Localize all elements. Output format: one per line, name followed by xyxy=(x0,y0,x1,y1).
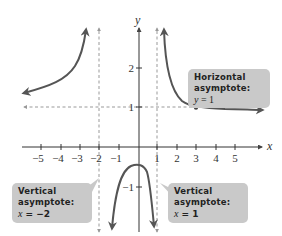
y-tick-label: 1 xyxy=(129,101,135,113)
left-branch xyxy=(24,30,86,93)
callout-equation: x = −2 xyxy=(18,208,86,220)
x-tick-label: −2 xyxy=(90,152,102,164)
eq-value: = −2 xyxy=(22,209,50,219)
x-tick-label: 5 xyxy=(232,152,238,164)
callout-title: Horizontal asymptote: xyxy=(194,72,264,94)
callout-equation: x = 1 xyxy=(174,208,242,220)
x-tick-label: 3 xyxy=(193,152,199,164)
x-tick-label: −4 xyxy=(52,152,64,164)
callout-title: Vertical asymptote: xyxy=(174,186,242,208)
eq-value: = 1 xyxy=(198,94,214,105)
x-tick-label: 1 xyxy=(154,152,160,164)
horizontal-asymptote-callout: Horizontal asymptote: y = 1 xyxy=(188,69,270,108)
x-tick-label: −3 xyxy=(71,152,83,164)
callout-equation: y = 1 xyxy=(194,94,264,105)
vertical-asymptote-left-callout: Vertical asymptote: x = −2 xyxy=(12,183,92,223)
x-axis-label: x xyxy=(266,139,273,153)
x-tick-label: 2 xyxy=(174,152,180,164)
x-tick-label: −1 xyxy=(110,152,122,164)
middle-branch xyxy=(112,165,154,228)
y-axis-label: y xyxy=(134,13,141,27)
eq-value: = 1 xyxy=(178,209,198,219)
x-tick-label: −5 xyxy=(32,152,44,164)
y-tick-label: −1 xyxy=(122,181,134,193)
vertical-asymptote-right-callout: Vertical asymptote: x = 1 xyxy=(168,183,248,223)
x-tick-label: 4 xyxy=(213,152,219,164)
y-tick-label: 2 xyxy=(129,62,135,74)
x-tick-labels: −5 −4 −3 −2 −1 1 2 3 4 5 xyxy=(32,152,238,164)
callout-title: Vertical asymptote: xyxy=(18,186,86,208)
